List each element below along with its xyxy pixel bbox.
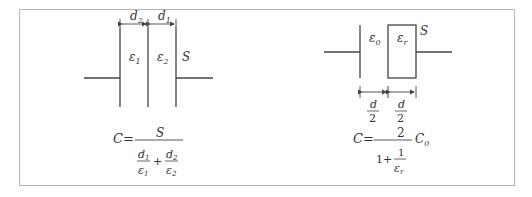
svg-text:ε1: ε1: [138, 164, 148, 178]
label-eps1: ε1: [129, 50, 141, 66]
right-labels: ε0 εr S d 2 d 2 C= 2 1+ 1 εr C0: [353, 24, 429, 176]
svg-text:ε2: ε2: [166, 164, 177, 178]
formula-left-numerator: S: [156, 126, 164, 140]
svg-text:+: +: [153, 155, 162, 168]
svg-text:2: 2: [397, 112, 404, 125]
label-d1: d1: [158, 9, 171, 25]
label-eps2: ε2: [157, 50, 169, 66]
capacitor-diagrams: d2 d1 ε1 ε2 S C= S d1 ε1 + d2 ε2 ε0 εr S…: [0, 0, 532, 197]
formula-left-lhs: C=: [113, 131, 134, 146]
formula-right-lhs: C=: [353, 131, 374, 146]
svg-text:C0: C0: [415, 132, 429, 148]
svg-text:d2: d2: [166, 148, 178, 162]
svg-text:d1: d1: [138, 148, 150, 162]
svg-text:2: 2: [369, 112, 376, 125]
svg-text:d: d: [370, 98, 377, 111]
label-S-left: S: [182, 50, 190, 64]
svg-text:1+: 1+: [376, 153, 392, 166]
right-capacitor: [324, 25, 452, 98]
svg-text:d: d: [398, 98, 405, 111]
svg-text:2: 2: [397, 126, 405, 140]
label-epsr: εr: [397, 31, 408, 47]
svg-text:1: 1: [398, 147, 404, 158]
label-d2: d2: [130, 9, 143, 25]
left-labels: d2 d1 ε1 ε2 S C= S d1 ε1 + d2 ε2: [113, 9, 190, 178]
label-S-right: S: [420, 24, 428, 38]
left-capacitor: [84, 19, 213, 107]
svg-text:εr: εr: [394, 162, 404, 176]
label-eps0: ε0: [369, 31, 381, 47]
